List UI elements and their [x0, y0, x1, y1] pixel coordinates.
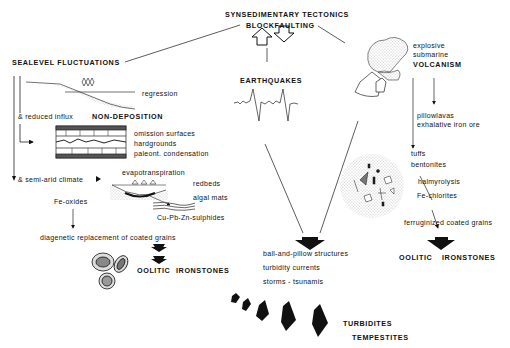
- redbeds-label: redbeds: [193, 180, 220, 187]
- bentonites-label: bentonites: [411, 161, 446, 168]
- ball-pillow-label: ball-and-pillow structures: [263, 250, 348, 257]
- left-flow-lines: [14, 76, 33, 176]
- non-deposition-label: NON-DEPOSITION: [92, 113, 163, 120]
- tempestites-label: TEMPESTITES: [352, 334, 409, 341]
- regression-label: regression: [142, 90, 178, 97]
- sediment-fragments-icon: [231, 293, 328, 337]
- halmyrolysis-label: halmyrolysis: [418, 178, 460, 185]
- connector-lines: [125, 25, 345, 62]
- ironstones-right-label: IRONSTONES: [442, 254, 495, 261]
- tuff-sample-icon: [340, 154, 404, 218]
- algal-mats-label: algal mats: [193, 194, 228, 201]
- explosive-label: explosive: [413, 42, 445, 49]
- semi-arid-label: & semi-arid climate: [18, 176, 83, 183]
- algal-mats-icon: [153, 202, 195, 210]
- omission-surfaces-label: omission surfaces: [134, 130, 195, 137]
- submarine-label: submarine: [413, 51, 448, 58]
- turbidites-label: TURBIDITES: [343, 320, 392, 327]
- diagenetic-label: diagenetic replacement of coated grains: [40, 234, 176, 241]
- ferruginized-label: ferruginized coated grains: [404, 219, 492, 226]
- evapotranspiration-label: evapotranspiration: [122, 169, 185, 176]
- hardground-block-icon: [56, 126, 126, 158]
- fe-chlorites-label: Fe-chlorites: [417, 192, 457, 199]
- sealevel-heading: SEALEVEL FLUCTUATIONS: [12, 59, 120, 66]
- condensation-label: paleont. condensation: [134, 150, 209, 157]
- reduced-influx-label: & reduced influx: [18, 113, 73, 120]
- pillowlavas-label: pillowlavas: [417, 112, 454, 119]
- down-arrow-icon: [151, 244, 167, 264]
- subtitle: BLOCKFAULTING: [246, 22, 315, 29]
- volcano-icon: [355, 37, 408, 96]
- oolitic-right-label: OOLITIC: [399, 254, 432, 261]
- storms-label: storms - tsunamis: [263, 278, 323, 285]
- ooids-icon: [92, 253, 131, 289]
- center-down-arrow-icon: [295, 237, 325, 250]
- hardgrounds-label: hardgrounds: [134, 140, 177, 147]
- right-down-arrow-icon: [427, 237, 455, 250]
- turbidity-label: turbidity currents: [263, 264, 320, 271]
- tuffs-label: tuffs: [411, 150, 426, 157]
- ironstones-left-label: IRONSTONES: [176, 267, 229, 274]
- evaporation-basin-icon: [110, 180, 170, 205]
- volcanism-label: VOLCANISM: [413, 61, 462, 68]
- earthquakes-label: EARTHQUAKES: [240, 77, 302, 84]
- regression-diagram-icon: [26, 78, 135, 109]
- sulphides-label: Cu-Pb-Zn-sulphides: [157, 214, 225, 221]
- fe-oxides-label: Fe-oxides: [54, 198, 87, 205]
- oolitic-left-label: OOLITIC: [137, 267, 170, 274]
- exhalative-label: exhalative iron ore: [417, 121, 480, 128]
- seismogram-icon: [234, 89, 298, 121]
- title: SYNSEDIMENTARY TECTONICS: [225, 11, 349, 18]
